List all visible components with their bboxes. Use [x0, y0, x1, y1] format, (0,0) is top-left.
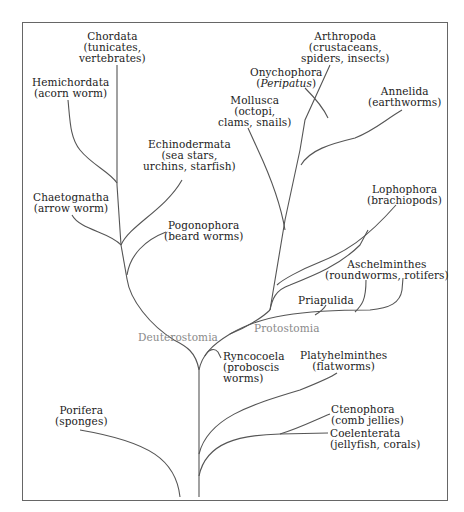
label-coelenterata: Coelenterata (jellyfish, corals) — [330, 428, 421, 450]
label-ryncocoela: Ryncocoela (proboscis worms) — [223, 351, 285, 384]
branch-ryncocoela — [205, 349, 221, 358]
branch-pogonophora — [127, 232, 166, 275]
branch-porifera — [80, 430, 180, 497]
branch-annelida — [301, 110, 402, 165]
branch-chaetognatha — [72, 215, 121, 245]
label-pogonophora: Pogonophora (beard worms) — [164, 220, 243, 242]
label-ctenophora: Ctenophora (comb jellies) — [331, 404, 404, 426]
label-chordata: Chordata (tunicates, vertebrates) — [79, 31, 146, 64]
branch-priapulida — [315, 305, 326, 315]
label-onychophora: Onychophora (Peripatus) — [250, 67, 322, 89]
branch-ctenophora — [280, 414, 330, 434]
branch-coelenterata — [199, 433, 328, 476]
label-arthropoda: Arthropoda (crustaceans, spiders, insect… — [301, 31, 390, 64]
label-deuterostomia: Deuterostomia — [138, 332, 218, 343]
label-protostomia: Protostomia — [254, 323, 320, 334]
branch-deutero-stem — [121, 245, 127, 279]
label-hemichordata: Hemichordata (acorn worm) — [32, 77, 109, 99]
label-priapulida: Priapulida — [298, 295, 354, 306]
branch-hemichordata — [68, 100, 117, 183]
label-platyhelminthes: Platyhelminthes (flatworms) — [300, 350, 387, 372]
branch-mollusca — [248, 128, 285, 230]
label-aschelminthes: Aschelminthes (roundworms, rotifers) — [325, 259, 449, 281]
label-lophophora: Lophophora (brachiopods) — [367, 184, 442, 206]
branch-deuterostomia — [127, 279, 199, 370]
label-porifera: Porifera (sponges) — [55, 405, 108, 427]
label-chaetognatha: Chaetognatha (arrow worm) — [33, 192, 109, 214]
label-echinodermata: Echinodermata (sea stars, urchins, starf… — [143, 139, 236, 172]
branch-chordata — [117, 65, 121, 245]
branch-platyhelminthes — [199, 373, 337, 454]
label-annelida: Annelida (earthworms) — [368, 86, 442, 108]
label-mollusca: Mollusca (octopi, clams, snails) — [218, 95, 292, 128]
branch-aschelminthes — [355, 280, 366, 312]
